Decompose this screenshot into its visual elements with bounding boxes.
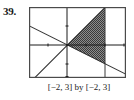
viewing-window-caption: [−2, 3] by [−2, 3] [29, 82, 129, 93]
figure-page: 39. [0, 0, 134, 100]
graph-figure [29, 7, 126, 78]
problem-number: 39. [3, 5, 16, 17]
graph-svg [29, 7, 126, 78]
